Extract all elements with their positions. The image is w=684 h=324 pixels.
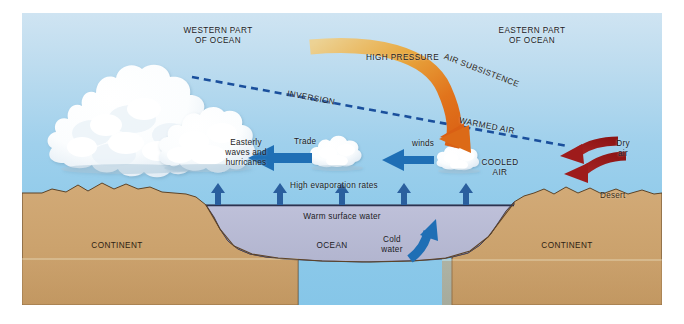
diagram-canvas: WESTERN PART OF OCEAN EASTERN PART OF OC… — [0, 0, 684, 324]
label-warm-surface-water: Warm surface water — [272, 212, 412, 222]
label-desert: Desert — [600, 191, 626, 201]
label-easterly-waves-hurricanes: Easterly waves and hurricanes — [208, 138, 284, 168]
label-high-pressure: HIGH PRESSURE — [366, 53, 439, 63]
label-cooled-air: COOLED AIR — [472, 158, 528, 178]
label-cold-water: Cold water — [374, 235, 410, 255]
diagram-artwork — [22, 13, 662, 305]
label-western-part-of-ocean: WESTERN PART OF OCEAN — [158, 26, 278, 46]
label-ocean: OCEAN — [302, 241, 362, 251]
label-high-evaporation-rates: High evaporation rates — [254, 181, 414, 191]
trade-wind-arrow-right — [382, 149, 434, 171]
label-dry-air: Dry air — [606, 139, 640, 159]
illustration-frame: WESTERN PART OF OCEAN EASTERN PART OF OC… — [22, 13, 662, 305]
ocean-water-body — [206, 202, 514, 262]
lower-sediment-left — [22, 260, 298, 305]
cumulus-cloud-small — [310, 136, 363, 171]
label-winds: winds — [412, 139, 434, 149]
lower-sediment-right — [442, 261, 662, 305]
label-eastern-part-of-ocean: EASTERN PART OF OCEAN — [472, 26, 592, 46]
label-trade: Trade — [294, 137, 316, 147]
label-continent-right: CONTINENT — [522, 241, 612, 251]
label-continent-left: CONTINENT — [72, 241, 162, 251]
